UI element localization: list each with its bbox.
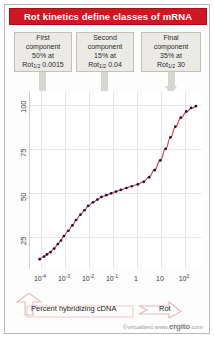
data-point [190, 107, 193, 110]
data-point [136, 183, 139, 186]
first-component-line1: First [36, 34, 50, 43]
x-tick-6: 102 [170, 273, 198, 282]
percent-hybridizing-label: Percent hybridizing cDNA [31, 304, 116, 313]
figure-title-bar: Rot kinetics define classes of mRNA [9, 8, 207, 25]
data-point [96, 198, 99, 201]
second-component-rot-value: 0.04 [108, 61, 122, 68]
second-component-rot-sub: 1/2 [99, 63, 106, 69]
footer-brand: ergito [169, 322, 190, 331]
figure-root: Rot kinetics define classes of mRNA Firs… [0, 0, 214, 338]
y-tick-75: 75 [19, 149, 28, 157]
data-point [115, 190, 118, 193]
second-component-line1: Second [93, 34, 117, 43]
final-component-rot-sub: 1/2 [168, 63, 175, 69]
data-point [148, 176, 151, 179]
data-point [79, 213, 82, 216]
data-point [87, 204, 90, 207]
data-point [75, 219, 78, 222]
second-component-line2: component [88, 43, 123, 52]
final-component-rot-value: 30 [177, 61, 185, 68]
data-point [159, 159, 162, 162]
first-component-rot-sub: 1/2 [33, 63, 40, 69]
data-point [38, 258, 41, 261]
footer-tld: .com [190, 324, 203, 330]
data-point [49, 251, 52, 254]
y-tick-50: 50 [19, 193, 28, 201]
second-component-box: Second component 15% at Rot1/2 0.04 [76, 32, 134, 72]
first-component-rot: Rot1/2 0.0015 [22, 61, 64, 70]
first-component-rot-value: 0.0015 [42, 61, 63, 68]
first-component-line2: component [26, 43, 61, 52]
second-component-rot-label: Rot [88, 61, 99, 68]
axis-direction-arrows: Percent hybridizing cDNA Rot [13, 293, 203, 319]
final-component-rot: Rot1/2 30 [157, 61, 185, 70]
first-component-line3: 50% at [32, 52, 54, 61]
final-component-box: Final component 35% at Rot1/2 30 [141, 32, 201, 72]
data-point [92, 201, 95, 204]
data-point [195, 105, 198, 108]
data-point [174, 125, 177, 128]
first-component-rot-label: Rot [22, 61, 33, 68]
plot-area [29, 91, 202, 269]
final-component-line1: Final [163, 34, 178, 43]
footer-copyright: ©virtualtext [123, 324, 153, 330]
data-point [46, 253, 49, 256]
data-point [60, 239, 63, 242]
final-component-line3: 35% at [160, 52, 182, 61]
data-point [63, 235, 66, 238]
data-point [179, 116, 182, 119]
final-component-rot-label: Rot [157, 61, 168, 68]
second-component-line3: 15% at [94, 52, 116, 61]
data-point [120, 188, 123, 191]
data-point [71, 224, 74, 227]
figure-frame: Rot kinetics define classes of mRNA Firs… [4, 4, 210, 334]
data-point [164, 148, 167, 151]
data-point [143, 180, 146, 183]
data-point [57, 243, 60, 246]
data-point [125, 187, 128, 190]
data-point [130, 185, 133, 188]
rot-axis-label: Rot [159, 304, 171, 313]
data-point [83, 209, 86, 212]
hybridization-curve [30, 91, 202, 269]
y-tick-25: 25 [19, 237, 28, 245]
data-point [100, 196, 103, 199]
data-point [169, 136, 172, 139]
data-point [153, 169, 156, 172]
final-component-line2: component [154, 43, 189, 52]
y-tick-100: 100 [19, 100, 28, 113]
data-point [67, 229, 70, 232]
page-title: Rot kinetics define classes of mRNA [24, 11, 192, 22]
second-component-rot: Rot1/2 0.04 [88, 61, 122, 70]
data-point [53, 247, 56, 250]
data-point [43, 255, 46, 258]
footer-www: www. [155, 324, 169, 330]
data-point [110, 192, 113, 195]
data-point [185, 110, 188, 113]
footer-attribution: ©virtualtext www.ergito.com [5, 322, 203, 331]
data-point [105, 194, 108, 197]
first-component-box: First component 50% at Rot1/2 0.0015 [14, 32, 72, 72]
